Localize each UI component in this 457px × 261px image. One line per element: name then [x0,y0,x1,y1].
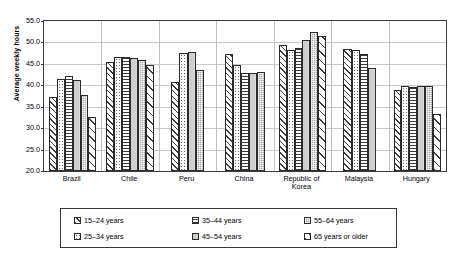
y-axis-title: Average weekly hours [13,4,20,124]
chart-page: Average weekly hours 20.025.030.035.040.… [0,0,457,261]
legend-swatch-icon-3 [74,233,81,240]
bar [88,117,96,171]
legend-swatch-icon-4 [192,233,199,240]
legend-label-5: 65 years or older [314,233,368,240]
x-axis-category-label: Peru [158,175,215,183]
legend-item-3: 25–34 years [74,233,192,240]
bar [196,70,204,171]
bar [114,57,122,171]
plot-area: 20.025.030.035.040.045.050.055.0 [43,20,447,172]
bar [73,80,81,171]
y-axis-tick-label: 35.0 [26,103,40,110]
bar-group-bars [274,21,331,171]
legend-swatch-icon-1 [192,217,199,224]
bar [310,32,318,171]
x-axis-category-label: Brazil [43,175,100,183]
bar [188,52,196,171]
bar-group [101,21,158,171]
bar [57,79,65,171]
bar [409,87,417,171]
bar-group-bars [159,21,216,171]
bar-group [44,21,101,171]
y-axis-tick-label: 40.0 [26,82,40,89]
legend-swatch-icon-5 [304,233,311,240]
legend-item-2: 55–64 years [304,217,354,224]
legend-label-3: 25–34 years [84,233,124,240]
bar [171,82,179,171]
legend-item-0: 15–24 years [74,217,192,224]
bar [49,97,57,171]
bar [249,73,257,171]
legend-item-4: 45–54 years [192,233,304,240]
legend-item-5: 65 years or older [304,233,368,240]
bar [146,65,154,171]
bar [233,65,241,171]
plot-inner: 20.025.030.035.040.045.050.055.0 [44,21,446,171]
y-axis-tick-label: 45.0 [26,60,40,67]
bar [352,50,360,171]
bar-group [274,21,331,171]
legend-label-2: 55–64 years [314,217,354,224]
y-axis-tick-label: 30.0 [26,125,40,132]
y-axis-tick-label: 50.0 [26,39,40,46]
x-axis-category-label: Malaysia [330,175,387,183]
legend-label-4: 45–54 years [202,233,242,240]
bar [343,49,351,171]
bar [394,90,402,171]
bar [295,48,303,171]
x-axis-category-label: China [215,175,272,183]
bar [417,86,425,171]
bar-group-bars [216,21,273,171]
y-axis-tick-mark [41,171,44,172]
bar [287,50,295,171]
bar-group [389,21,446,171]
bar [130,58,138,171]
legend-item-1: 35–44 years [192,217,304,224]
x-axis-category-label: Chile [100,175,157,183]
legend-row-1: 15–24 years 35–44 years 55–64 years [61,213,396,229]
bar [106,62,114,171]
bar [302,40,310,171]
x-axis-category-label: Hungary [388,175,445,183]
bar [401,86,409,171]
legend-label-1: 35–44 years [202,217,242,224]
legend-label-0: 15–24 years [84,217,124,224]
y-axis-tick-label: 20.0 [26,167,40,174]
bar [425,86,433,171]
bar-group [159,21,216,171]
x-axis-category-label: Republic ofKorea [273,175,330,192]
y-axis-tick-label: 55.0 [26,17,40,24]
bar [368,68,376,171]
legend-swatch-icon-2 [304,217,311,224]
bar [433,114,441,171]
legend-swatch-icon-0 [74,217,81,224]
bar [257,72,265,171]
bar [179,53,187,171]
bar [65,76,73,171]
bar-group [331,21,388,171]
chart-legend: 15–24 years 35–44 years 55–64 years 25–3… [60,208,397,248]
y-axis-tick-label: 25.0 [26,146,40,153]
bar [138,60,146,171]
bar [225,54,233,171]
bar [318,36,326,171]
bar [241,73,249,171]
bar-group-bars [101,21,158,171]
legend-row-2: 25–34 years 45–54 years 65 years or olde… [61,229,396,245]
bar [360,54,368,171]
bar [122,57,130,171]
bar-group-bars [331,21,388,171]
bar-group [216,21,273,171]
bar [81,95,89,171]
bar [279,45,287,171]
bar-group-bars [44,21,101,171]
bar-group-bars [389,21,446,171]
